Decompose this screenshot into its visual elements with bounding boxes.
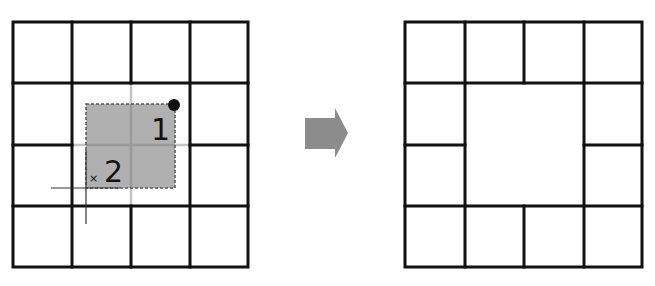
- cursor-mark: ×: [89, 172, 98, 185]
- arrow-right-icon: [305, 108, 348, 158]
- selection-handle-icon: [168, 99, 180, 111]
- label-end: 2: [104, 154, 123, 189]
- merged-cell: [467, 85, 582, 204]
- grid-before: 1 × 2: [13, 22, 248, 267]
- grid-after: [405, 22, 642, 267]
- label-start: 1: [151, 112, 170, 147]
- merge-cells-diagram: 1 × 2: [0, 0, 655, 286]
